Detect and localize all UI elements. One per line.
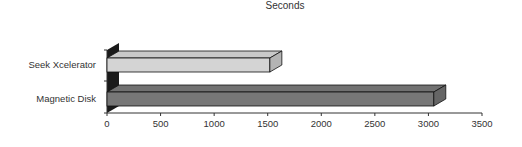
x-tick-label: 1000: [194, 118, 234, 129]
x-tick-label: 1500: [248, 118, 288, 129]
x-tick-label: 3500: [462, 118, 502, 129]
x-tick-label: 500: [141, 118, 181, 129]
bar-seek-xcelerator: [107, 58, 270, 72]
x-tick-label: 2500: [355, 118, 395, 129]
bar-top-face: [107, 85, 446, 92]
x-tick-label: 3000: [408, 118, 448, 129]
bar-top-face: [107, 51, 282, 58]
x-tick-label: 2000: [301, 118, 341, 129]
x-tick-label: 0: [87, 118, 127, 129]
bar-magnetic-disk: [107, 92, 434, 106]
